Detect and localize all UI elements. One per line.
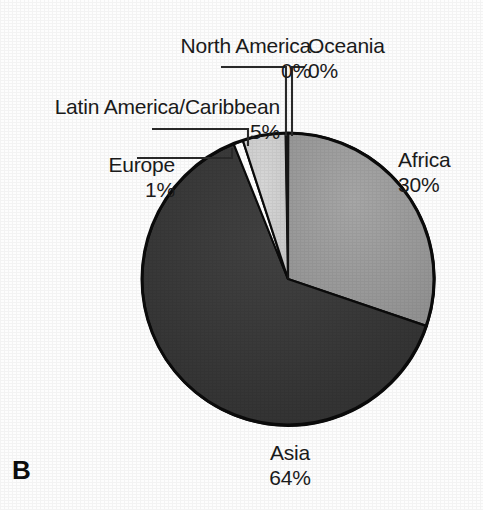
pie-label-europe-value: 1% — [60, 177, 175, 202]
pie-label-asia-value: 64% — [250, 465, 330, 490]
pie-label-africa-value: 30% — [398, 172, 483, 197]
pie-label-europe-name: Europe — [108, 153, 175, 176]
pie-label-north-america-value: 0% — [146, 58, 311, 83]
pie-label-north-america-name: North America — [181, 34, 311, 57]
pie-label-latin-america-caribbean: Latin America/Caribbean 5% — [30, 94, 280, 144]
pie-label-north-america: North America 0% — [146, 33, 311, 83]
pie-label-oceania-value: 0% — [308, 58, 428, 83]
figure-panel-b: North America 0% Oceania 0% Latin Americ… — [0, 0, 483, 510]
pie-label-africa-name: Africa — [398, 148, 450, 171]
pie-label-asia-name: Asia — [270, 441, 310, 464]
pie-slice-oceania[interactable] — [287, 133, 289, 279]
pie-label-latin-america-caribbean-name: Latin America/Caribbean — [55, 95, 280, 118]
pie-label-oceania: Oceania 0% — [308, 33, 428, 83]
pie-label-oceania-name: Oceania — [308, 34, 385, 57]
pie-label-africa: Africa 30% — [398, 147, 483, 197]
panel-letter: B — [12, 455, 31, 486]
pie-label-europe: Europe 1% — [60, 152, 175, 202]
pie-label-asia: Asia 64% — [250, 440, 330, 490]
pie-label-latin-america-caribbean-value: 5% — [30, 119, 280, 144]
